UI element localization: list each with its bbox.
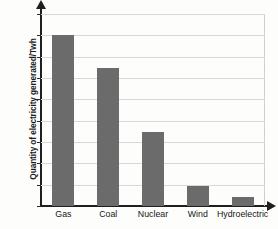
y-tick-mark [37, 57, 41, 58]
x-tick-label-gas: Gas [55, 209, 71, 219]
x-tick-label-coal: Coal [99, 209, 117, 219]
bar-gas [52, 35, 74, 206]
y-tick-mark [37, 78, 41, 79]
y-tick-mark [37, 142, 41, 143]
gridline [41, 57, 265, 58]
x-axis-arrow-icon [267, 201, 276, 211]
gridline [41, 35, 265, 36]
y-tick-mark [37, 99, 41, 100]
y-tick-mark [37, 185, 41, 186]
gridline [41, 14, 265, 15]
bar-coal [97, 68, 119, 206]
gridline [41, 121, 265, 122]
x-tick-label-nuclear: Nuclear [138, 209, 168, 219]
bar-chart: Quantity of electricity generated/Twh 02… [0, 0, 278, 229]
bar-wind [187, 186, 209, 206]
bar-nuclear [142, 132, 164, 206]
gridline [41, 99, 265, 100]
y-tick-mark [37, 163, 41, 164]
y-axis-arrow-icon [36, 0, 46, 9]
y-tick-mark [37, 14, 41, 15]
plot-area: 020406080100120140160180 [41, 14, 265, 206]
y-tick-mark [37, 35, 41, 36]
x-tick-label-hydroelectric: Hydroelectric [217, 209, 268, 219]
gridline [41, 78, 265, 79]
y-tick-mark [37, 121, 41, 122]
y-tick-mark [37, 206, 41, 207]
x-tick-label-wind: Wind [188, 209, 208, 219]
bar-hydroelectric [232, 197, 254, 206]
plot-right-border [264, 14, 265, 206]
y-axis-title: Quantity of electricity generated/Twh [28, 14, 38, 204]
